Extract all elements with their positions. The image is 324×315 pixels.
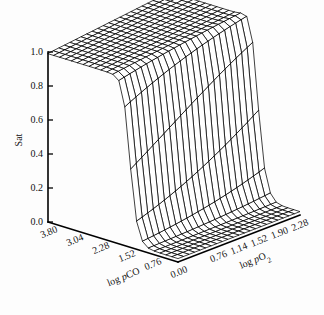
po2-axis-title: log pO2 (238, 249, 273, 275)
sat-axis-title: Sat (13, 133, 24, 146)
po2-tick-label: 1.14 (229, 240, 249, 257)
pco-tick-label: 3.04 (65, 231, 85, 248)
mesh-surface (48, 0, 300, 259)
po2-tick-label: 1.52 (249, 232, 269, 249)
pco-tick-label: 1.52 (117, 247, 137, 264)
pco-tick-label: 2.28 (91, 239, 111, 256)
pco-tick-label: 0.76 (143, 255, 163, 272)
pco-axis-title: log pCO (105, 265, 141, 288)
po2-tick-label: 2.28 (290, 216, 310, 233)
po2-tick-label: 1.90 (269, 224, 289, 241)
sat-tick-label: 0.8 (31, 80, 44, 91)
surface-plot: 1.00.80.60.40.20.03.803.042.281.520.760.… (0, 0, 324, 315)
figure-container: 1.00.80.60.40.20.03.803.042.281.520.760.… (0, 0, 324, 315)
sat-tick-label: 1.0 (31, 46, 44, 57)
sat-tick-label: 0.0 (31, 216, 44, 227)
pco-tick-label: 0.00 (169, 263, 189, 280)
sat-tick-label: 0.6 (31, 114, 44, 125)
sat-tick-label: 0.2 (31, 182, 44, 193)
sat-tick-label: 0.4 (31, 148, 44, 159)
po2-tick-label: 0.76 (208, 248, 228, 265)
